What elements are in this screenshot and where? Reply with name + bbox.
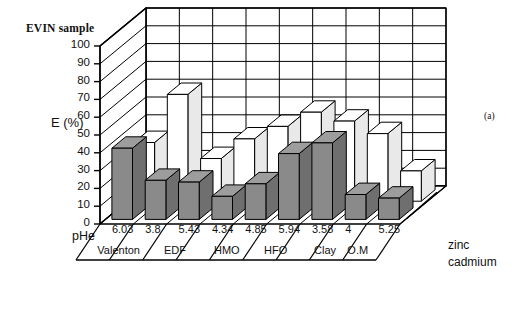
bar: [179, 171, 214, 220]
bar: [145, 169, 180, 220]
chart-plot-area: [0, 0, 527, 330]
x-axis-group-label: Clay: [314, 244, 336, 256]
chart-figure: EVIN sample (a) E (%) pHe 10090807060504…: [0, 0, 527, 330]
x-axis-tick: 6.03: [112, 223, 133, 235]
x-axis-tick: 5.25: [379, 223, 400, 235]
x-axis-tick: 4.85: [245, 223, 266, 235]
bar: [312, 132, 346, 220]
x-axis-tick: 3.58: [312, 223, 333, 235]
bar: [245, 172, 280, 219]
x-axis-group-label: O.M: [347, 244, 368, 256]
legend-item-cadmium: cadmium: [448, 255, 497, 269]
x-axis-group-label: EDF: [164, 244, 186, 256]
legend-item-zinc: zinc: [448, 238, 469, 252]
x-axis-tick: 5.94: [279, 223, 300, 235]
x-axis-group-label: Valenton: [97, 244, 140, 256]
x-axis-group-label: HFO: [264, 244, 287, 256]
bar: [112, 137, 146, 220]
x-axis-tick: 4: [345, 223, 351, 235]
bar: [279, 142, 314, 219]
x-axis-tick: 4.34: [212, 223, 233, 235]
x-axis-tick: 5.43: [179, 223, 200, 235]
x-axis-tick: 3.8: [145, 223, 160, 235]
x-axis-group-label: HMO: [214, 244, 240, 256]
